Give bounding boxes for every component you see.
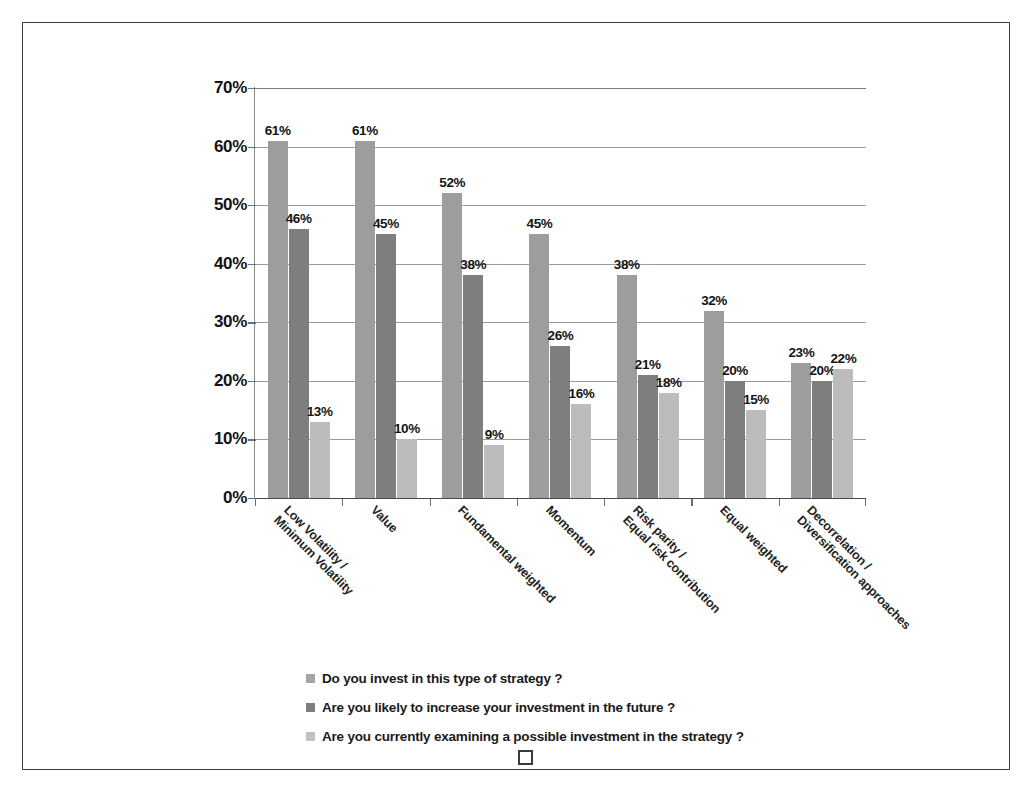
screenshot-root: 0%10%20%30%40%50%60%70% 61%46%13%61%45%1… (0, 0, 1027, 786)
y-tick-label: 70% (181, 78, 247, 98)
bar-value-label: 52% (435, 175, 469, 190)
bar (659, 393, 679, 498)
legend-swatch-icon (306, 703, 315, 712)
bar (638, 375, 658, 498)
y-axis-labels: 0%10%20%30%40%50%60%70% (175, 88, 247, 498)
bar-group: 32%20%15% (691, 88, 778, 498)
category-label-line: Fundamental weighted (455, 503, 558, 606)
category-label: Value (368, 503, 400, 535)
category-label-line: Momentum (543, 503, 599, 559)
y-tick-mark (248, 498, 256, 499)
x-axis-category-labels: Low Volatility /Minimum VolatilityValueF… (255, 503, 895, 633)
y-tick-label: 40% (181, 254, 247, 274)
category-label: Equal weighted (717, 503, 790, 576)
bar-value-label: 45% (522, 216, 556, 231)
category-label: Low Volatility /Minimum Volatility (271, 503, 366, 598)
bar-value-label: 13% (303, 404, 337, 419)
y-tick-mark (248, 88, 256, 89)
bar (529, 234, 549, 498)
bar (833, 369, 853, 498)
chart-legend: Do you invest in this type of strategy ?… (306, 664, 826, 751)
legend-label: Do you invest in this type of strategy ? (322, 671, 562, 686)
legend-item[interactable]: Are you currently examining a possible i… (306, 722, 826, 751)
bar (376, 234, 396, 498)
bar (746, 410, 766, 498)
category-label-line: Diversification approaches (795, 513, 914, 632)
bar-value-label: 9% (477, 427, 511, 442)
category-label: Momentum (543, 503, 599, 559)
y-tick-mark (248, 439, 256, 440)
y-tick-mark (248, 264, 256, 265)
category-label: Fundamental weighted (455, 503, 558, 606)
category-label-line: Value (368, 503, 400, 535)
bar-value-label: 32% (697, 293, 731, 308)
bar-value-label: 46% (282, 211, 316, 226)
bar (397, 439, 417, 498)
bar (550, 346, 570, 498)
bar-value-label: 26% (543, 328, 577, 343)
bar-value-label: 16% (564, 386, 598, 401)
y-tick-label: 0% (181, 488, 247, 508)
bar-value-label: 15% (739, 392, 773, 407)
bar-value-label: 38% (610, 257, 644, 272)
bar-value-label: 61% (261, 123, 295, 138)
bar (812, 381, 832, 498)
y-tick-label: 20% (181, 371, 247, 391)
y-tick-label: 10% (181, 429, 247, 449)
legend-swatch-icon (306, 674, 315, 683)
bar-group: 61%45%10% (342, 88, 429, 498)
bar (791, 363, 811, 498)
bar-value-label: 18% (652, 375, 686, 390)
bar-group: 61%46%13% (255, 88, 342, 498)
plot-area: 61%46%13%61%45%10%52%38%9%45%26%16%38%21… (255, 88, 866, 498)
bar (289, 229, 309, 498)
bar-value-label: 45% (369, 216, 403, 231)
bar-value-label: 23% (784, 345, 818, 360)
category-label: Risk parity /Equal risk contribution (620, 503, 733, 616)
category-label-line: Equal weighted (717, 503, 790, 576)
y-tick-mark (248, 147, 256, 148)
bar-value-label: 61% (348, 123, 382, 138)
bar-group: 52%38%9% (430, 88, 517, 498)
bar (617, 275, 637, 498)
legend-item[interactable]: Do you invest in this type of strategy ? (306, 664, 826, 693)
y-tick-mark (248, 205, 256, 206)
bar-value-label: 21% (631, 357, 665, 372)
bar (442, 193, 462, 498)
category-label: Decorrelation /Diversification approache… (795, 503, 924, 632)
bar (268, 141, 288, 498)
y-tick-label: 30% (181, 312, 247, 332)
bar (310, 422, 330, 498)
bar (571, 404, 591, 498)
bar-group: 23%20%22% (779, 88, 866, 498)
legend-item[interactable]: Are you likely to increase your investme… (306, 693, 826, 722)
legend-label: Are you likely to increase your investme… (322, 700, 675, 715)
bar-group: 38%21%18% (604, 88, 691, 498)
y-tick-mark (248, 381, 256, 382)
bar (463, 275, 483, 498)
y-tick-label: 60% (181, 137, 247, 157)
bar-value-label: 22% (826, 351, 860, 366)
legend-label: Are you currently examining a possible i… (322, 729, 744, 744)
bar (355, 141, 375, 498)
category-label-line: Equal risk contribution (620, 513, 723, 616)
bar-value-label: 10% (390, 421, 424, 436)
bar-value-label: 38% (456, 257, 490, 272)
y-tick-label: 50% (181, 195, 247, 215)
bar-group: 45%26%16% (517, 88, 604, 498)
y-tick-mark (248, 322, 256, 323)
bar (704, 311, 724, 498)
legend-swatch-icon (306, 732, 315, 741)
bar (484, 445, 504, 498)
figure-border: 0%10%20%30%40%50%60%70% 61%46%13%61%45%1… (22, 22, 1010, 770)
bar-value-label: 20% (718, 363, 752, 378)
empty-square-marker (518, 750, 533, 765)
